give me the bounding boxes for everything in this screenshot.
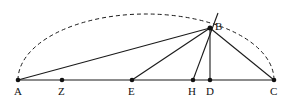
point-E — [130, 78, 135, 83]
geometry-diagram: A Z E H D C B — [0, 0, 289, 105]
point-H — [191, 78, 196, 83]
diagram-drawing — [0, 0, 289, 105]
label-Z: Z — [58, 86, 65, 97]
point-Z — [60, 78, 65, 83]
point-D — [208, 78, 213, 83]
label-H: H — [188, 86, 196, 97]
segment-AB — [18, 28, 210, 80]
label-A: A — [14, 86, 22, 97]
point-B — [208, 26, 213, 31]
label-E: E — [128, 86, 135, 97]
point-C — [272, 78, 277, 83]
label-D: D — [206, 86, 214, 97]
label-B: B — [215, 21, 222, 32]
segment-EB — [132, 28, 210, 80]
label-C: C — [270, 86, 277, 97]
point-A — [16, 78, 21, 83]
